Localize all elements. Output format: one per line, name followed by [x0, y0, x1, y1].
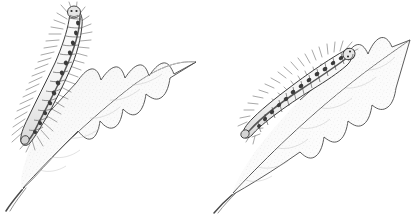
illustration-canvas	[0, 0, 412, 215]
caterpillar-head-left	[68, 6, 81, 18]
illustration-plate: Spiny caterpillar resting on a serrated …	[0, 0, 412, 215]
